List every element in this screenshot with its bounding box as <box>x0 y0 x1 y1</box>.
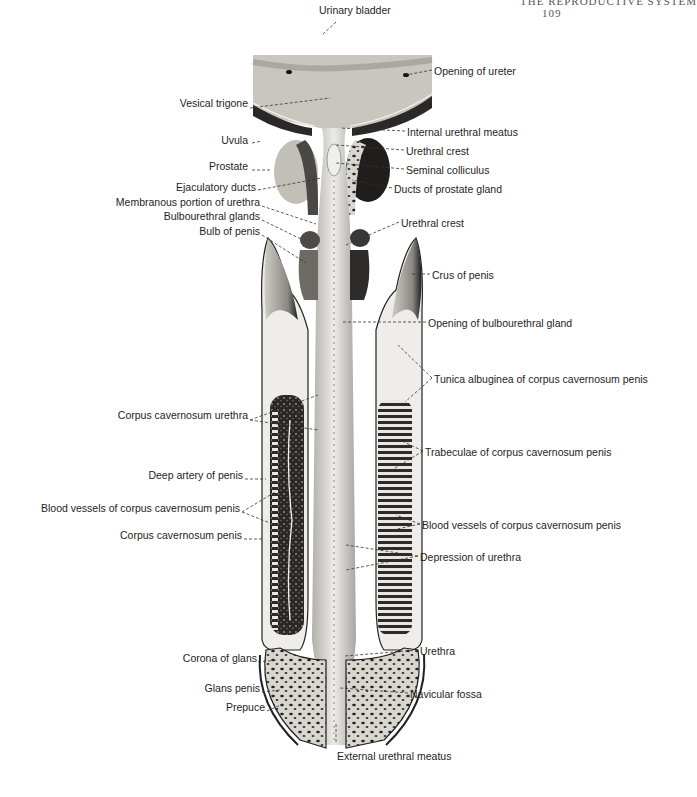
label-opening-of-ureter: Opening of ureter <box>434 65 516 77</box>
label-corpus-cavernosum-penis: Corpus cavernosum penis <box>120 529 242 541</box>
label-navicular-fossa: Navicular fossa <box>410 688 482 700</box>
label-prepuce: Prepuce <box>226 701 265 713</box>
label-membranous-urethra: Membranous portion of urethra <box>116 196 260 208</box>
label-ejaculatory-ducts: Ejaculatory ducts <box>176 181 256 193</box>
label-tunica-albuginea: Tunica albuginea of corpus cavernosum pe… <box>434 373 648 385</box>
right-corpus-cavernosum <box>376 238 422 650</box>
label-external-urethral-meatus: External urethral meatus <box>337 750 451 762</box>
label-blood-vessels-left: Blood vessels of corpus cavernosum penis <box>41 502 240 514</box>
urinary-bladder-shape <box>253 55 432 136</box>
label-prostate: Prostate <box>209 160 248 172</box>
label-urethra: Urethra <box>420 645 455 657</box>
label-glans-penis: Glans penis <box>205 682 260 694</box>
label-blood-vessels-right: Blood vessels of corpus cavernosum penis <box>422 519 621 531</box>
label-urethral-crest-lower: Urethral crest <box>401 217 464 229</box>
label-urinary-bladder: Urinary bladder <box>319 4 391 16</box>
label-uvula: Uvula <box>221 134 248 146</box>
label-deep-artery: Deep artery of penis <box>148 469 243 481</box>
label-bulb-of-penis: Bulb of penis <box>199 225 260 237</box>
label-depression-of-urethra: Depression of urethra <box>420 551 521 563</box>
anatomical-illustration <box>0 0 697 797</box>
left-corpus-cavernosum <box>262 238 308 650</box>
urethra-shaft <box>312 128 356 745</box>
label-vesical-trigone: Vesical trigone <box>180 97 248 109</box>
label-urethral-crest-upper: Urethral crest <box>406 145 469 157</box>
label-corpus-cavernosum-urethra: Corpus cavernosum urethra <box>118 409 248 421</box>
label-crus-of-penis: Crus of penis <box>432 269 494 281</box>
label-opening-bulbourethral: Opening of bulbourethral gland <box>428 317 572 329</box>
label-trabeculae: Trabeculae of corpus cavernosum penis <box>425 446 611 458</box>
label-seminal-colliculus: Seminal colliculus <box>406 164 489 176</box>
label-corona-of-glans: Corona of glans <box>183 652 257 664</box>
label-internal-urethral-meatus: Internal urethral meatus <box>407 126 518 138</box>
label-bulbourethral-glands: Bulbourethral glands <box>164 210 260 222</box>
label-ducts-of-prostate: Ducts of prostate gland <box>394 183 502 195</box>
